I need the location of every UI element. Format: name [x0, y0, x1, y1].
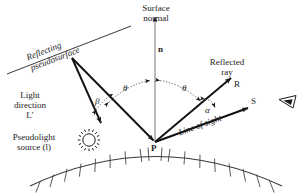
reflected-ray-line1: Reflected: [202, 57, 252, 67]
light-direction-label: Light direction Lʹ: [6, 90, 54, 120]
pseudolight-sun-icon: [78, 129, 100, 151]
reflected-vector-label: R: [234, 79, 240, 89]
angle-theta-right-label: θ: [182, 83, 186, 93]
surface-normal-label-line1: Surface: [130, 3, 182, 13]
normal-vector-label: n: [158, 44, 163, 54]
reflected-ray-line2: ray: [202, 67, 252, 77]
angle-beta-label: β: [95, 96, 99, 106]
light-direction-vector: [72, 58, 101, 123]
reflected-ray-label: Reflected ray: [202, 57, 252, 77]
angle-theta-left-label: θ: [123, 83, 127, 93]
light-direction-line1: Light: [6, 90, 54, 100]
point-p-label: P: [151, 143, 157, 153]
incident-ray: [72, 58, 154, 141]
light-direction-line2: direction: [6, 100, 54, 110]
observer-eye-icon: [279, 96, 296, 109]
light-direction-symbol: Lʹ: [6, 110, 54, 120]
ground-surface: [30, 148, 282, 193]
sight-vector-label: S: [251, 96, 256, 106]
pseudolight-line1: Pseudolight: [2, 132, 66, 142]
angle-theta-right-arc: [160, 81, 201, 102]
surface-normal-label: Surface normal: [130, 3, 182, 23]
surface-normal-label-line2: normal: [130, 13, 182, 23]
pseudolight-source-label: Pseudolight source (l): [2, 132, 66, 152]
angle-theta-left-arc: [109, 81, 151, 103]
angle-alpha-label: α: [205, 105, 210, 115]
diagram-canvas: Surface normal n Reflecting pseudosurfac…: [0, 0, 307, 195]
pseudolight-line2: source (l): [2, 142, 66, 152]
